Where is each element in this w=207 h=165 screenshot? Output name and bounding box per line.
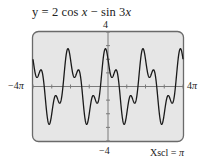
graph-window: [0, 0, 207, 165]
